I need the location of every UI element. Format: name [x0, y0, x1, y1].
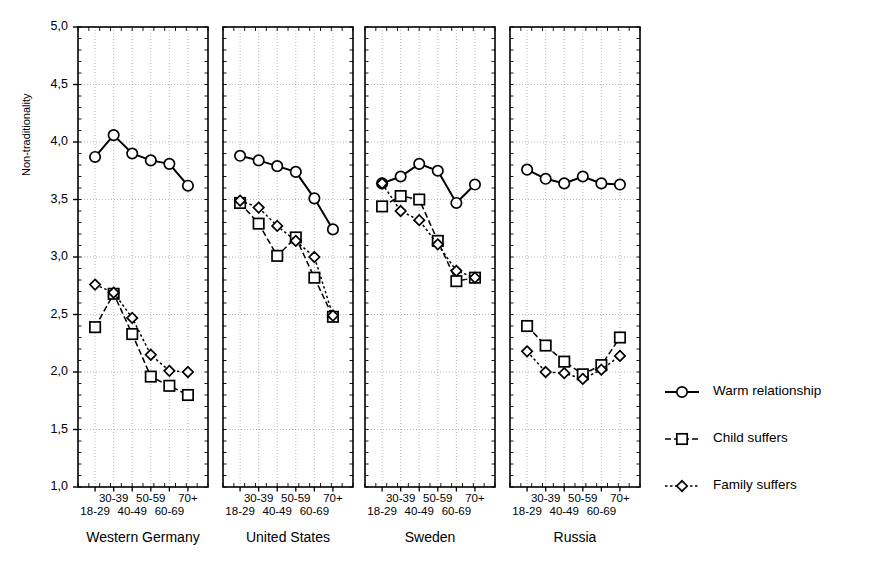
- marker-square: [146, 371, 156, 381]
- x-axis-tick-label: 70+: [596, 492, 644, 504]
- marker-diamond: [615, 351, 625, 361]
- x-axis-tick-label: 70+: [164, 492, 212, 504]
- y-axis-tick-label: 3,0: [28, 249, 68, 263]
- marker-circle: [328, 224, 338, 234]
- marker-square: [559, 356, 569, 366]
- marker-circle: [433, 166, 443, 176]
- marker-circle: [164, 159, 174, 169]
- x-axis-tick-label: 60-69: [145, 505, 193, 517]
- marker-diamond: [540, 367, 550, 377]
- marker-circle: [291, 167, 301, 177]
- marker-diamond: [146, 350, 156, 360]
- marker-square: [451, 276, 461, 286]
- marker-circle: [235, 151, 245, 161]
- y-axis-tick-label: 1,5: [28, 422, 68, 436]
- marker-square: [615, 332, 625, 342]
- marker-circle: [395, 171, 405, 181]
- panel-frame: [78, 27, 208, 487]
- panel-frame: [223, 27, 353, 487]
- marker-diamond: [183, 367, 193, 377]
- marker-square: [414, 194, 424, 204]
- panel-sweden: [365, 27, 495, 492]
- x-axis-tick-label: 60-69: [290, 505, 338, 517]
- panel-united-states: [223, 27, 353, 492]
- marker-diamond: [414, 215, 424, 225]
- marker-square: [272, 251, 282, 261]
- marker-square: [309, 273, 319, 283]
- marker-circle: [414, 159, 424, 169]
- panel-frame: [365, 27, 495, 487]
- marker-square: [183, 390, 193, 400]
- x-axis-tick-label: 70+: [451, 492, 499, 504]
- marker-circle: [272, 161, 282, 171]
- marker-diamond: [677, 481, 687, 491]
- panel-western-germany: [78, 27, 208, 492]
- marker-circle: [451, 198, 461, 208]
- marker-diamond: [253, 202, 263, 212]
- marker-circle: [596, 178, 606, 188]
- marker-circle: [559, 178, 569, 188]
- y-axis-title: Non-traditionality: [20, 36, 38, 176]
- y-axis-tick-label: 2,5: [28, 307, 68, 321]
- marker-diamond: [559, 368, 569, 378]
- panel-title: Russia: [490, 529, 660, 545]
- marker-square: [377, 201, 387, 211]
- x-axis-tick-label: 60-69: [432, 505, 480, 517]
- marker-diamond: [90, 279, 100, 289]
- marker-square: [540, 340, 550, 350]
- y-axis-tick-label: 2,0: [28, 364, 68, 378]
- marker-circle: [470, 179, 480, 189]
- marker-circle: [615, 179, 625, 189]
- y-axis-tick-label: 3,5: [28, 192, 68, 206]
- multi-panel-line-chart: 1,01,52,02,53,03,54,04,55,0Non-tradition…: [0, 0, 872, 572]
- marker-square: [522, 321, 532, 331]
- marker-square: [395, 191, 405, 201]
- marker-circle: [253, 155, 263, 165]
- marker-circle: [677, 387, 687, 397]
- marker-square: [164, 381, 174, 391]
- marker-square: [90, 322, 100, 332]
- marker-circle: [540, 174, 550, 184]
- marker-diamond: [395, 206, 405, 216]
- marker-circle: [90, 152, 100, 162]
- y-axis-tick-label: 5,0: [28, 19, 68, 33]
- marker-square: [253, 218, 263, 228]
- x-axis-tick-label: 60-69: [577, 505, 625, 517]
- legend-label-family-suffers: Family suffers: [713, 477, 797, 492]
- marker-square: [127, 329, 137, 339]
- marker-diamond: [309, 252, 319, 262]
- marker-square: [677, 434, 687, 444]
- legend-label-child-suffers: Child suffers: [713, 430, 788, 445]
- marker-circle: [578, 171, 588, 181]
- marker-circle: [146, 155, 156, 165]
- marker-circle: [183, 181, 193, 191]
- marker-circle: [309, 193, 319, 203]
- x-axis-tick-label: 70+: [309, 492, 357, 504]
- panel-russia: [510, 27, 640, 492]
- panel-frame: [510, 27, 640, 487]
- marker-circle: [522, 164, 532, 174]
- marker-circle: [127, 148, 137, 158]
- marker-circle: [108, 130, 118, 140]
- legend-label-warm-relationship: Warm relationship: [713, 383, 821, 398]
- series-line-child-suffers: [382, 196, 475, 281]
- y-axis-tick-label: 1,0: [28, 479, 68, 493]
